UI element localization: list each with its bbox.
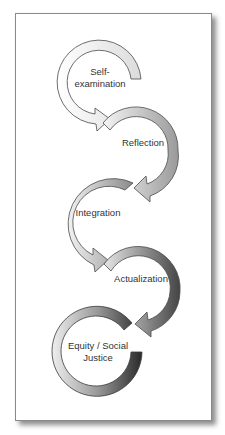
label-equity-social-justice: Equity / Social Justice bbox=[68, 340, 128, 364]
label-line: Integration bbox=[76, 207, 121, 219]
label-self-examination: Self- examination bbox=[74, 66, 125, 90]
label-line: Equity / Social bbox=[68, 340, 128, 352]
label-line: Self- bbox=[74, 66, 125, 78]
label-line: Reflection bbox=[122, 137, 164, 149]
label-actualization: Actualization bbox=[114, 273, 168, 285]
arrow-actualization bbox=[104, 246, 180, 337]
label-integration: Integration bbox=[76, 207, 121, 219]
label-line: Actualization bbox=[114, 273, 168, 285]
label-line: Justice bbox=[68, 352, 128, 364]
arrow-reflection bbox=[103, 107, 178, 202]
label-reflection: Reflection bbox=[122, 137, 164, 149]
label-line: examination bbox=[74, 78, 125, 90]
